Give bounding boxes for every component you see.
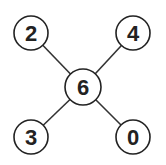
node-label: 0	[127, 125, 139, 150]
nodes: 62430	[14, 16, 150, 154]
node-bottom-right: 0	[116, 120, 150, 154]
node-top-left: 2	[14, 16, 48, 50]
node-top-right: 4	[116, 16, 150, 50]
diagram-canvas: 62430	[0, 0, 166, 165]
node-label: 2	[25, 21, 37, 46]
node-bottom-left: 3	[14, 120, 48, 154]
node-center: 6	[65, 69, 101, 105]
node-label: 6	[77, 75, 89, 100]
node-label: 3	[25, 125, 37, 150]
star-diagram: 62430	[0, 0, 166, 165]
node-label: 4	[127, 21, 140, 46]
